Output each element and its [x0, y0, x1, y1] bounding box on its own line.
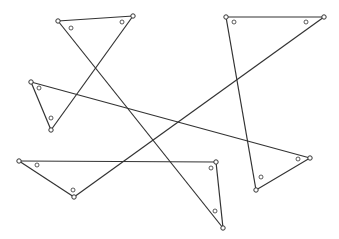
- triangle-diagram: [0, 0, 339, 239]
- angle-marker: [49, 116, 53, 120]
- edge-KE: [256, 158, 310, 190]
- vertex-H: [72, 195, 76, 199]
- vertex-B: [131, 14, 135, 18]
- vertex-A: [56, 19, 60, 23]
- angle-marker: [304, 20, 308, 24]
- vertex-C: [49, 128, 53, 132]
- edge-BC: [51, 16, 133, 130]
- angle-marker: [209, 166, 213, 170]
- vertex-K: [254, 188, 258, 192]
- vertex-L: [221, 226, 225, 230]
- vertices: [17, 14, 326, 230]
- angle-marker: [120, 20, 124, 24]
- vertex-J: [224, 15, 228, 19]
- vertex-F: [17, 159, 21, 163]
- edge-FG: [19, 161, 216, 162]
- angle-marker: [232, 20, 236, 24]
- vertex-G: [214, 160, 218, 164]
- edge-GL: [216, 162, 223, 228]
- edge-FH: [19, 161, 74, 197]
- edge-JK: [226, 17, 256, 190]
- angle-marker: [35, 163, 39, 167]
- angle-marker: [69, 26, 73, 30]
- edges: [19, 16, 324, 228]
- angle-marker: [37, 86, 41, 90]
- vertex-D: [29, 80, 33, 84]
- angle-marker: [71, 188, 75, 192]
- angle-marker: [213, 209, 217, 213]
- edge-DE: [31, 82, 310, 158]
- vertex-I: [322, 15, 326, 19]
- angle-marker: [296, 157, 300, 161]
- edge-AL: [58, 21, 223, 228]
- angle-marker: [259, 175, 263, 179]
- edge-HI: [74, 17, 324, 197]
- vertex-E: [308, 156, 312, 160]
